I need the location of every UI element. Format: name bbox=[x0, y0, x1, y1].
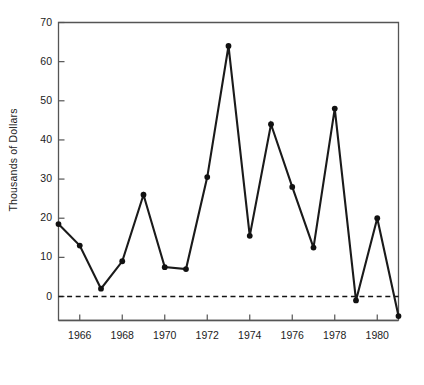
y-axis-tick-label: 70 bbox=[22, 16, 52, 28]
data-point-marker bbox=[332, 106, 338, 112]
data-point-marker bbox=[119, 258, 125, 264]
data-point-marker bbox=[247, 233, 253, 239]
x-axis-tick-label: 1970 bbox=[143, 329, 187, 341]
data-point-marker bbox=[204, 174, 210, 180]
y-axis-tick-label: 50 bbox=[22, 94, 52, 106]
y-axis-tick-label: 20 bbox=[22, 211, 52, 223]
x-axis-tick-label: 1974 bbox=[228, 329, 272, 341]
data-point-marker bbox=[77, 243, 83, 249]
data-point-marker bbox=[289, 184, 295, 190]
y-axis-tick-label: 40 bbox=[22, 133, 52, 145]
line-chart-plot bbox=[0, 0, 424, 385]
y-axis-tick-label: 10 bbox=[22, 250, 52, 262]
data-point-marker bbox=[353, 298, 359, 304]
chart-container: Thousands of Dollars Years 0102030405060… bbox=[0, 0, 424, 385]
data-point-marker bbox=[396, 313, 402, 319]
data-point-marker bbox=[162, 264, 168, 270]
data-point-marker bbox=[226, 43, 232, 49]
plot-frame bbox=[59, 23, 399, 321]
data-point-marker bbox=[183, 266, 189, 272]
data-point-markers bbox=[56, 43, 402, 319]
y-axis-tick-label: 60 bbox=[22, 55, 52, 67]
x-axis-tick-label: 1966 bbox=[58, 329, 102, 341]
x-axis-tick-label: 1972 bbox=[185, 329, 229, 341]
data-point-marker bbox=[141, 192, 147, 198]
x-axis-ticks bbox=[80, 315, 378, 321]
data-series-line bbox=[59, 46, 399, 316]
data-point-marker bbox=[311, 245, 317, 251]
data-point-marker bbox=[56, 221, 62, 227]
x-axis-tick-label: 1980 bbox=[355, 329, 399, 341]
x-axis-tick-label: 1968 bbox=[100, 329, 144, 341]
x-axis-tick-label: 1978 bbox=[313, 329, 357, 341]
data-point-marker bbox=[268, 121, 274, 127]
y-axis-tick-label: 0 bbox=[22, 290, 52, 302]
y-axis-ticks bbox=[59, 23, 65, 297]
data-point-marker bbox=[374, 215, 380, 221]
x-axis-tick-label: 1976 bbox=[270, 329, 314, 341]
y-axis-tick-label: 30 bbox=[22, 172, 52, 184]
data-point-marker bbox=[98, 286, 104, 292]
